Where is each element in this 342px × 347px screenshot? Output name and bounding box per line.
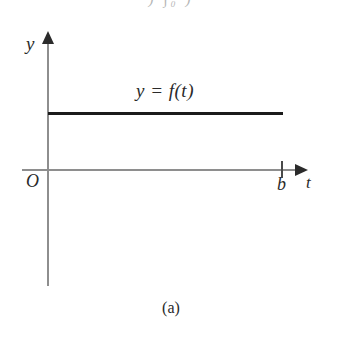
t-axis-label: t	[306, 174, 311, 191]
origin-label: O	[26, 172, 39, 190]
cropped-formula-fragment: ) ∫₀ )	[0, 0, 342, 7]
y-axis-arrowhead-icon	[42, 31, 54, 44]
function-curve-line	[48, 112, 283, 115]
y-axis-line	[47, 40, 49, 286]
curve-equation-label: y = f(t)	[136, 81, 194, 100]
x-tick-label-b: b	[277, 175, 286, 193]
y-axis-label: y	[26, 34, 34, 53]
figure-panel-a: ) ∫₀ ) y O b t y = f(t) (a)	[0, 0, 342, 347]
t-axis-line	[22, 169, 300, 171]
figure-caption: (a)	[0, 299, 342, 317]
